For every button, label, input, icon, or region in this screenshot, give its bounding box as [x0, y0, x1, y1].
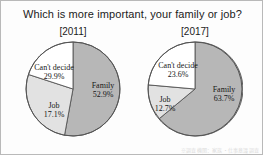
pie-panel-2011: [2011] Family 52.9% Can't decide 29.9% [13, 26, 133, 148]
pie-slice-cant-decide-2017 [148, 42, 195, 89]
pie-svg-2017 [147, 41, 243, 137]
pie-panel-2017: [2017] Family 63.7% Can't decide 23.6% [135, 26, 255, 148]
source-credit: ※調査機関：家族・仕事意識調査 [181, 146, 259, 153]
chart-figure: Which is more important, your family or … [0, 0, 263, 155]
pie-chart-2011: Family 52.9% Can't decide 29.9% Job 17.1… [25, 41, 121, 137]
pie-chart-2017: Family 63.7% Can't decide 23.6% Job 12.7… [147, 41, 243, 137]
page-title: Which is more important, your family or … [1, 8, 263, 20]
panel-label-2017: [2017] [135, 26, 255, 37]
pie-svg-2011 [25, 41, 121, 137]
panel-label-2011: [2011] [13, 26, 133, 37]
